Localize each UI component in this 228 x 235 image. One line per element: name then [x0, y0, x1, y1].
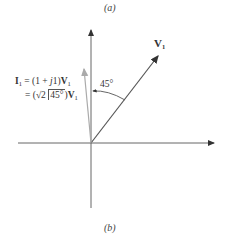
i1-vector [84, 69, 91, 143]
angle-arc [93, 91, 125, 100]
angle-notation: 45° [48, 89, 64, 100]
caption-b: (b) [104, 222, 116, 233]
v1-label: V1 [154, 37, 165, 50]
angle-label: 45° [100, 79, 113, 89]
i1-equation-line1: I1 = (1 + j1)V1 [15, 76, 71, 87]
phasor-diagram [0, 0, 228, 235]
i1-equation-line2: = (√2 45°)V1 [25, 90, 78, 101]
